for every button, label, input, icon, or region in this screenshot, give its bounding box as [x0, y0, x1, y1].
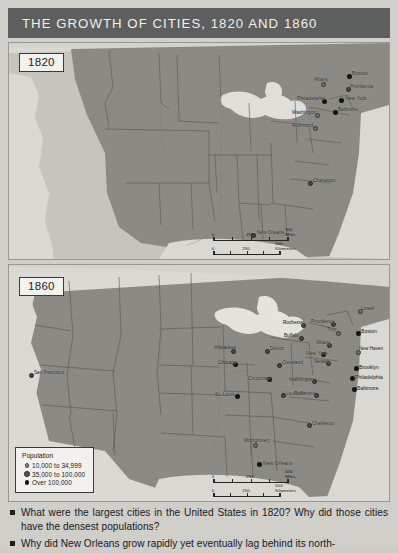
map-1820-canvas [9, 43, 389, 259]
city-label-brooklyn: Brooklyn [359, 364, 379, 370]
city-label-washington: Washington [292, 110, 317, 115]
city-dot-boston [347, 74, 352, 79]
city-label-troy: Troy [327, 327, 336, 332]
city-label-boston: Boston [352, 70, 368, 76]
city-label-cleveland: Cleveland [282, 360, 303, 365]
legend-item-medium: 35,000 to 100,000 [22, 470, 85, 479]
scale-1820-mi-500: 500 Miles [285, 227, 295, 237]
city-dot-new-orleans-1860 [257, 462, 262, 467]
city-label-baltimore: Baltimore [338, 107, 358, 112]
legend-dot-large-icon [22, 480, 32, 485]
bullet-square-icon [10, 537, 21, 551]
page-title: THE GROWTH OF CITIES, 1820 AND 1860 [8, 16, 317, 31]
question-text-2: Why did New Orleans grow rapidly yet eve… [21, 537, 335, 551]
city-label-albany: Albany [314, 77, 328, 82]
city-label-new-haven: New Haven [359, 346, 383, 351]
map-1860-year-label: 1860 [19, 277, 64, 296]
city-label-richmond-1860: Richmond [294, 391, 315, 396]
bullet-square-icon [10, 506, 21, 534]
city-dot-boston-1860 [356, 331, 361, 336]
city-dot-albany [321, 82, 326, 87]
map-1820-artwork [9, 43, 389, 259]
city-label-rochester: Rochester [283, 320, 304, 325]
city-dot-baltimore-1860 [352, 387, 357, 392]
city-label-providence: Providence [350, 84, 373, 89]
legend-dot-medium-icon [22, 471, 32, 477]
city-label-buffalo: Buffalo [284, 333, 299, 338]
map-1860[interactable]: 1860 San Francisco Milwaukee Chicago Det… [8, 264, 390, 502]
legend-label-large: Over 100,000 [32, 479, 72, 486]
city-label-milwaukee: Milwaukee [214, 345, 236, 350]
map-1820-scale-bar: 0 250 500 Miles 0 250 500 Kilometers [213, 231, 289, 255]
city-label-richmond: Richmond [292, 123, 313, 128]
city-label-providence-1860: Providence [311, 319, 334, 324]
scale-1820-km-500: 500 Kilometers [275, 241, 296, 251]
city-dot-st-louis [235, 394, 240, 399]
city-label-detroit: Detroit [270, 346, 284, 351]
scale-1820-km-bar [213, 251, 281, 255]
city-dot-baltimore [333, 110, 338, 115]
city-label-st-louis: St. Louis [215, 391, 235, 397]
city-label-boston-1860: Boston [361, 328, 377, 334]
city-label-baltimore-1860: Baltimore [357, 385, 379, 391]
city-label-new-york-1860: New York [306, 350, 328, 356]
legend-title: Population [22, 452, 85, 459]
city-label-washington-1860: Washington [289, 377, 314, 382]
legend-dot-small-icon [22, 463, 32, 468]
questions-block: What were the largest cities in the Unit… [10, 506, 388, 553]
city-dot-troy [336, 331, 341, 336]
legend-item-large: Over 100,000 [22, 479, 85, 488]
city-label-newark: Newark [314, 359, 330, 364]
map-1860-scale-bar: 0 250 500 Miles 0 250 500 Kilometers [213, 473, 289, 497]
scale-1860-km-500: 500 Kilometers [275, 483, 296, 493]
city-label-new-orleans-1860: New Orleans [263, 460, 292, 466]
city-dot-montgomery [253, 443, 258, 448]
city-label-new-york: New York [345, 95, 367, 101]
legend-item-small: 10,000 to 34,999 [22, 462, 85, 471]
city-label-lowell: Lowell [361, 306, 374, 311]
city-dot-philadelphia-1860 [350, 376, 355, 381]
city-dot-new-york [339, 98, 344, 103]
city-label-albany-1860: Albany [316, 340, 330, 345]
city-label-cincinnati: Cincinnati [248, 375, 270, 381]
city-dot-richmond [313, 126, 318, 131]
city-label-charleston-1860: Charleston [312, 421, 335, 426]
page-title-bar: THE GROWTH OF CITIES, 1820 AND 1860 [8, 8, 390, 38]
city-label-chicago: Chicago [218, 359, 237, 365]
city-label-charleston: Charleston [313, 178, 336, 183]
scale-1860-mi-500: 500 Miles [285, 469, 295, 479]
population-legend: Population 10,000 to 34,999 35,000 to 10… [15, 447, 94, 493]
legend-label-small: 10,000 to 34,999 [32, 462, 82, 469]
question-text-1: What were the largest cities in the Unit… [21, 506, 388, 534]
legend-label-medium: 35,000 to 100,000 [32, 471, 85, 478]
city-label-san-francisco: San Francisco [34, 370, 64, 375]
question-item: What were the largest cities in the Unit… [10, 506, 388, 534]
map-1820[interactable]: 1820 Boston Providence Albany New York P… [8, 42, 390, 260]
city-label-montgomery: Montgomery [244, 438, 270, 443]
city-label-philadelphia-1860: Philadelphia [355, 374, 383, 380]
city-dot-brooklyn [354, 366, 359, 371]
city-label-philadelphia: Philadelphia [297, 95, 325, 101]
question-item: Why did New Orleans grow rapidly yet eve… [10, 537, 388, 551]
map-1820-year-label: 1820 [19, 53, 64, 72]
scale-1860-km-bar [213, 493, 281, 497]
